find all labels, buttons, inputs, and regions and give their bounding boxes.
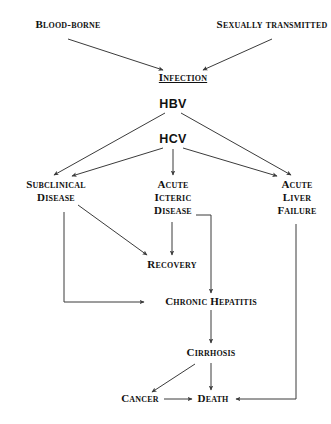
node-recovery-label: Recovery — [147, 258, 196, 271]
edge-subclinical-disease-to-chronic-hepatitis — [64, 212, 144, 302]
node-infection: Infection — [159, 71, 207, 84]
edge-sexually-transmitted-to-infection — [203, 39, 272, 70]
node-hbv: HBV — [159, 97, 186, 112]
node-subclinical-disease-label-line2: Disease — [26, 191, 85, 204]
edge-hcv-to-subclinical-disease — [72, 148, 163, 176]
node-cancer: Cancer — [121, 392, 159, 405]
edge-acute-liver-failure-to-death — [236, 224, 296, 399]
node-hcv: HCV — [159, 132, 186, 147]
node-infection-label: Infection — [159, 71, 207, 84]
node-chronic-hepatitis: Chronic Hepatitis — [165, 295, 257, 308]
node-blood-borne: Blood-borne — [35, 18, 100, 31]
edge-hbv-to-subclinical-disease — [54, 113, 165, 175]
node-recovery: Recovery — [147, 258, 196, 271]
node-sexually-transmitted-label: Sexually transmitted — [217, 18, 328, 31]
node-blood-borne-label: Blood-borne — [35, 18, 100, 31]
edge-acute-icteric-disease-to-chronic-hepatitis — [196, 215, 211, 293]
node-acute-liver-failure-label-line1: Acute — [277, 178, 316, 191]
node-hbv-label: HBV — [159, 97, 186, 112]
node-acute-liver-failure-label-line3: Failure — [277, 204, 316, 217]
node-acute-icteric-disease-label-line2: Icteric — [154, 191, 192, 204]
edge-hcv-to-acute-liver-failure — [183, 148, 277, 176]
node-cirrhosis: Cirrhosis — [187, 346, 236, 359]
node-acute-icteric-disease-label-line1: Acute — [154, 178, 192, 191]
edge-hbv-to-acute-liver-failure — [181, 113, 291, 175]
edge-cirrhosis-to-cancer — [152, 364, 195, 392]
node-sexually-transmitted: Sexually transmitted — [217, 18, 328, 31]
node-subclinical-disease-label-line1: Subclinical — [26, 178, 85, 191]
node-death-label: Death — [197, 392, 228, 405]
node-acute-icteric-disease-label-line3: Disease — [154, 204, 192, 217]
edge-subclinical-disease-to-recovery — [78, 205, 147, 255]
node-acute-liver-failure: Acute Liver Failure — [277, 178, 316, 217]
node-acute-icteric-disease: Acute Icteric Disease — [154, 178, 192, 217]
hepatitis-flowchart-diagram: Blood-borne Sexually transmitted Infecti… — [0, 0, 331, 424]
node-hcv-label: HCV — [159, 132, 186, 147]
node-cancer-label: Cancer — [121, 392, 159, 405]
node-chronic-hepatitis-label: Chronic Hepatitis — [165, 295, 257, 308]
node-cirrhosis-label: Cirrhosis — [187, 346, 236, 359]
node-death: Death — [197, 392, 228, 405]
edge-blood-borne-to-infection — [68, 39, 163, 70]
node-subclinical-disease: Subclinical Disease — [26, 178, 85, 204]
node-acute-liver-failure-label-line2: Liver — [277, 191, 316, 204]
